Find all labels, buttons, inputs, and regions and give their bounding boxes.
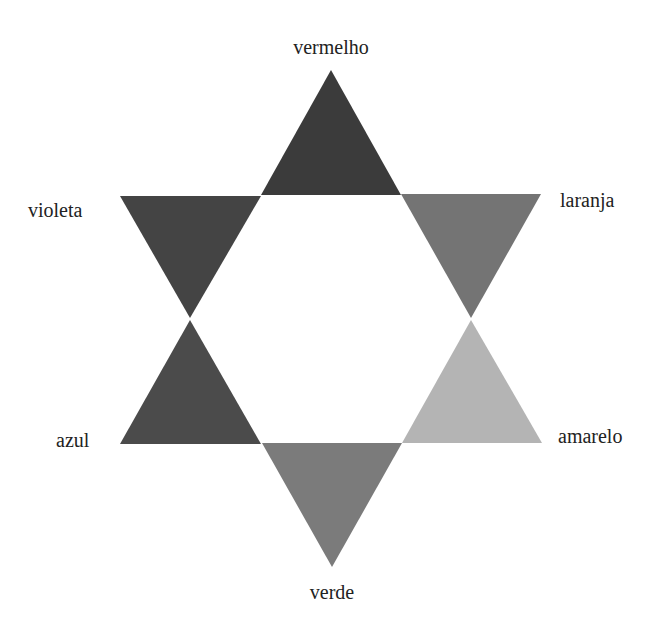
label-amarelo: amarelo (558, 426, 622, 446)
color-star-diagram (0, 0, 662, 630)
label-azul: azul (56, 430, 89, 450)
triangle-amarelo (402, 320, 542, 443)
label-verde: verde (310, 582, 354, 602)
triangle-laranja (401, 194, 541, 318)
label-violeta: violeta (28, 200, 82, 220)
label-laranja: laranja (560, 190, 614, 210)
label-vermelho: vermelho (293, 37, 369, 57)
triangle-azul (120, 320, 261, 444)
triangle-vermelho (261, 70, 401, 195)
triangle-violeta (120, 196, 261, 318)
triangle-verde (262, 443, 402, 567)
